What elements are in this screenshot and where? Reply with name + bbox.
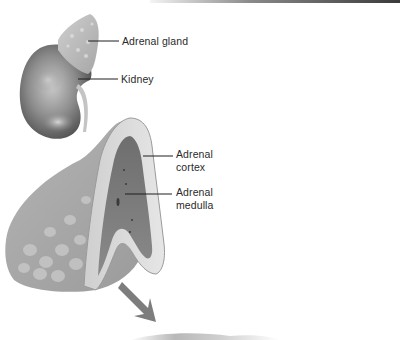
label-medulla-line2: medulla xyxy=(176,199,213,212)
label-adrenal-cortex: Adrenal cortex xyxy=(176,148,213,174)
label-adrenal-medulla: Adrenal medulla xyxy=(176,186,213,212)
label-medulla-line1: Adrenal xyxy=(176,186,213,199)
next-figure-edge xyxy=(130,333,280,340)
label-cortex-line2: cortex xyxy=(176,161,213,174)
adrenal-diagram: Adrenal gland Kidney Adrenal cortex Adre… xyxy=(0,0,400,340)
adrenal-cross-section xyxy=(5,118,164,292)
arrow-down-right-icon xyxy=(118,282,156,322)
label-adrenal-gland: Adrenal gland xyxy=(122,35,188,48)
label-cortex-line1: Adrenal xyxy=(176,148,213,161)
label-kidney: Kidney xyxy=(121,73,154,86)
